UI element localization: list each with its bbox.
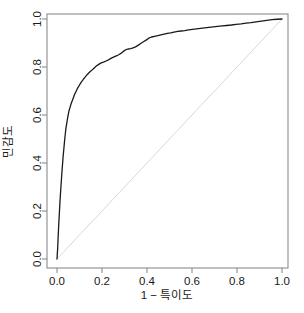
x-axis-title: 1 − 특이도 <box>141 289 194 301</box>
x-tick-label: 1.0 <box>274 275 290 287</box>
y-tick-label: 0.6 <box>31 107 43 123</box>
x-tick-label: 0.8 <box>229 275 245 287</box>
roc-chart-canvas: 0.00.20.40.60.81.0 0.00.20.40.60.81.0 1 … <box>0 0 304 313</box>
x-tick-label: 0.6 <box>184 275 200 287</box>
y-tick-label: 0.2 <box>31 203 43 219</box>
y-tick-label: 0.8 <box>31 59 43 75</box>
x-tick-label: 0.0 <box>49 275 65 287</box>
y-tick-label: 0.4 <box>31 154 43 171</box>
y-tick-label: 0.0 <box>31 251 43 267</box>
roc-plot-figure: 0.00.20.40.60.81.0 0.00.20.40.60.81.0 1 … <box>0 0 304 313</box>
figure-background <box>0 0 304 313</box>
y-tick-label: 1.0 <box>31 11 43 27</box>
x-tick-label: 0.2 <box>94 275 110 287</box>
y-axis-title: 민감도 <box>2 125 14 158</box>
x-tick-label: 0.4 <box>139 275 156 287</box>
